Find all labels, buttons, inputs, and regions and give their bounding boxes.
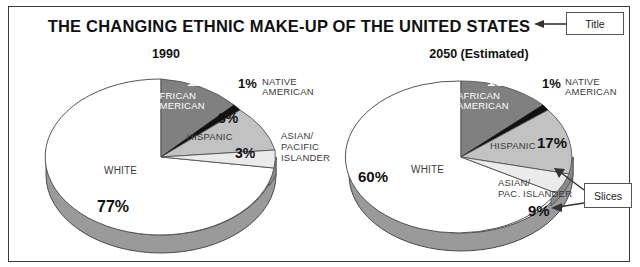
annotation-slices-text: Slices (594, 190, 622, 202)
pie-2050-asian-pacific-pct: 9% (528, 203, 550, 219)
pie-1990-african-american-label-2: AMERICAN (153, 101, 205, 111)
pie-2050-native-american-pct: 1% (542, 77, 561, 91)
pie-1990-hispanic-pct: 8% (218, 111, 238, 126)
annotation-slices-box: Slices (584, 183, 632, 208)
pie-1990-african-american-pct: 11% (187, 73, 216, 89)
pie-2050-hispanic-label: HISPANIC (490, 141, 536, 151)
pie-2050-hispanic-pct: 17% (537, 135, 567, 151)
pie-chart-2050 (337, 57, 577, 257)
pie-2050-african-american-label-2: AMERICAN (457, 101, 509, 111)
page-title: THE CHANGING ETHNIC MAKE-UP OF THE UNITE… (9, 17, 569, 36)
pie-1990-white-label: WHITE (104, 166, 137, 177)
pie-2050-asian-pacific-label-2: PAC. ISLANDER (498, 189, 572, 199)
pie-1990-asian-pacific-pct: 3% (235, 146, 255, 161)
annotation-title-text: Title (585, 18, 604, 30)
pie-1990-hispanic-label: HISPANIC (187, 132, 233, 142)
pie-1990-white-pct: 77% (97, 198, 129, 215)
annotation-title-box: Title (566, 12, 624, 35)
pie-2050-white-label: WHITE (411, 165, 444, 176)
chart-frame: THE CHANGING ETHNIC MAKE-UP OF THE UNITE… (8, 6, 630, 262)
pie-1990-native-american-label-2: AMERICAN (262, 87, 314, 97)
pie-1990-asian-pacific-label-3: ISLANDER (281, 153, 330, 163)
pie-1990-native-american-pct: 1% (238, 77, 257, 91)
pie-2050-white-pct: 60% (358, 169, 388, 185)
pie-1990-asian-pacific-label-1: ASIAN/ (281, 131, 313, 141)
pie-2050-native-american-label-2: AMERICAN (565, 87, 617, 97)
pie-2050-african-american-pct: 13% (487, 73, 517, 89)
pie-1990-asian-pacific-label-2: PACIFIC (281, 142, 319, 152)
pie-2050-svg (337, 57, 577, 257)
pie-2050-asian-pacific-label-1: ASIAN/ (498, 178, 530, 188)
